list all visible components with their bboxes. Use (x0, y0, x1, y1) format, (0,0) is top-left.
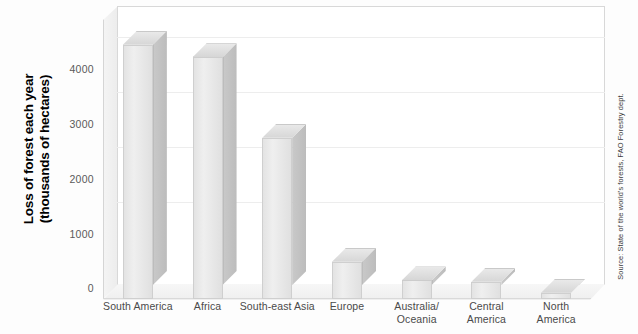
bar-front-face (332, 262, 362, 299)
chart-screenshot: Loss of forest each year (thousands of h… (0, 0, 638, 334)
bar-4[interactable] (402, 280, 432, 299)
bar-0[interactable] (123, 45, 153, 299)
y-tick-3000: 3000 (52, 118, 94, 130)
plot-left-wall (103, 6, 118, 299)
bar-front-face (402, 280, 432, 299)
plot-back-wall (117, 6, 605, 285)
gridline-4000 (117, 37, 605, 38)
bar-front-face (541, 293, 571, 299)
bar-side-face (153, 31, 167, 285)
x-label-line: North (506, 300, 606, 313)
gridline-1000 (117, 202, 605, 203)
bar-2[interactable] (262, 138, 292, 299)
bar-front-face (262, 138, 292, 299)
y-axis-tick-labels: 4000 3000 2000 1000 0 (46, 6, 94, 296)
y-tick-1000: 1000 (52, 228, 94, 240)
bar-side-face (292, 124, 306, 285)
plot-area (103, 6, 605, 296)
bar-1[interactable] (193, 57, 223, 299)
y-tick-0: 0 (52, 282, 94, 294)
y-tick-4000: 4000 (52, 63, 94, 75)
bar-5[interactable] (471, 282, 501, 299)
bar-3[interactable] (332, 262, 362, 299)
bar-front-face (471, 282, 501, 299)
bar-6[interactable] (541, 293, 571, 299)
bar-front-face (123, 45, 153, 299)
y-axis-title-line-1: Loss of forest each year (21, 74, 37, 225)
gridline-2000 (117, 147, 605, 148)
bar-front-face (193, 57, 223, 299)
x-label-6: NorthAmerica (506, 300, 606, 325)
x-axis-labels: South AmericaAfricaSouth-east AsiaEurope… (103, 300, 605, 334)
y-tick-2000: 2000 (52, 173, 94, 185)
source-note: Source: State of the world's forests, FA… (616, 67, 625, 307)
x-label-line: America (506, 313, 606, 326)
gridline-3000 (117, 92, 605, 93)
bar-side-face (223, 43, 237, 285)
